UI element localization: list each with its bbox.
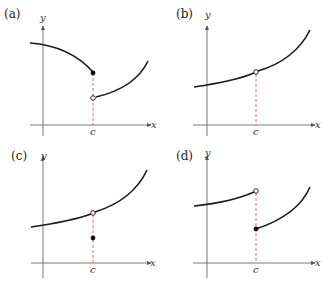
x-axis-label: x xyxy=(151,119,157,130)
c-label: c xyxy=(253,264,259,275)
curve-right xyxy=(96,61,148,97)
c-label: c xyxy=(253,126,259,137)
c-label: c xyxy=(90,126,96,137)
panel-label: (c) xyxy=(11,149,27,163)
open-dot xyxy=(91,211,96,216)
panel-a: (a) y x c xyxy=(4,7,157,137)
panel-c: (c) y x c xyxy=(11,149,156,278)
x-axis-label: x xyxy=(315,119,321,130)
figure: (a) y x c (b) y x c (c) y x c (d xyxy=(0,0,331,286)
curve-left xyxy=(194,192,254,206)
panel-label: (a) xyxy=(4,7,21,21)
y-axis-label: y xyxy=(204,147,211,158)
panel-label: (b) xyxy=(176,7,193,21)
y-axis-label: y xyxy=(204,9,211,20)
x-axis-label: x xyxy=(150,257,156,268)
panel-b: (b) y x c xyxy=(176,7,321,137)
panel-d: (d) y x c xyxy=(176,147,321,278)
filled-dot xyxy=(91,71,96,76)
open-dot xyxy=(91,96,96,101)
panel-label: (d) xyxy=(176,149,193,163)
open-dot xyxy=(254,70,259,75)
filled-dot xyxy=(91,236,96,241)
x-axis-label: x xyxy=(315,257,321,268)
filled-dot xyxy=(254,227,259,232)
y-axis-label: y xyxy=(39,12,46,23)
curve-left xyxy=(30,43,93,72)
c-label: c xyxy=(90,264,96,275)
curve xyxy=(31,170,147,227)
y-axis-label: y xyxy=(40,150,47,161)
curve-right xyxy=(256,187,310,229)
curve xyxy=(194,30,310,87)
open-dot xyxy=(254,189,259,194)
